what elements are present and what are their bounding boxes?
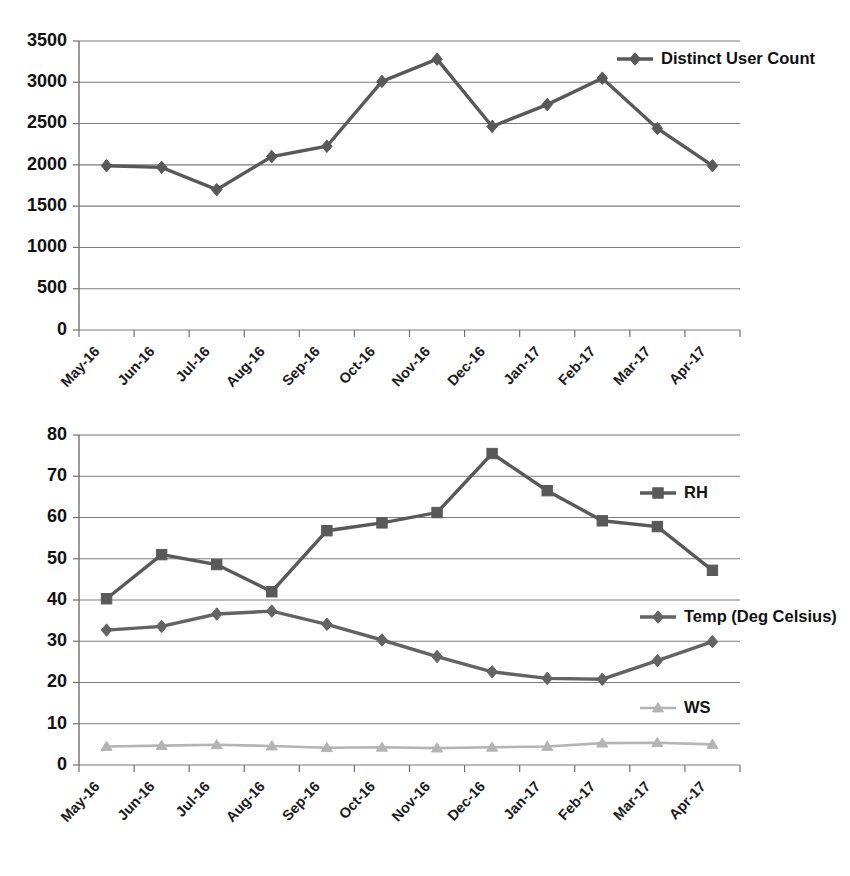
data-point-marker xyxy=(652,654,663,667)
data-point-marker xyxy=(487,448,497,458)
y-axis-tick-label: 0 xyxy=(57,319,67,339)
bottom-gridlines xyxy=(79,435,740,765)
weather-parameters-svg: 01020304050607080 May-16Jun-16Jul-16Aug-… xyxy=(0,415,850,876)
x-axis-tick-label: Apr-17 xyxy=(666,778,709,823)
data-point-marker xyxy=(101,594,111,604)
x-axis-tick-label: Sep-16 xyxy=(279,778,323,824)
y-axis-tick-label: 60 xyxy=(47,506,67,526)
legend-marker xyxy=(653,488,663,498)
legend-label: RH xyxy=(684,483,708,501)
legend-item-ws: WS xyxy=(640,698,711,716)
y-axis-tick-label: 80 xyxy=(47,424,67,444)
x-axis-tick-label: Aug-16 xyxy=(223,343,268,390)
y-axis-tick-label: 1500 xyxy=(27,195,67,215)
x-axis-tick-label: Oct-16 xyxy=(336,343,378,387)
data-point-marker xyxy=(707,635,718,648)
x-axis-tick-label: May-16 xyxy=(57,778,102,825)
x-axis-tick-label: May-16 xyxy=(57,343,102,390)
x-axis-tick-label: Feb-17 xyxy=(555,778,599,823)
x-axis-tick-label: Jun-16 xyxy=(114,343,158,388)
data-point-marker xyxy=(101,159,112,172)
bottom-x-axis-ticks xyxy=(79,765,740,772)
series-line-distinct-user-count xyxy=(107,59,713,189)
x-axis-tick-label: Jun-16 xyxy=(114,778,158,823)
bottom-y-axis-labels: 01020304050607080 xyxy=(47,424,67,774)
x-axis-tick-label: Oct-16 xyxy=(336,778,378,822)
x-axis-tick-label: Feb-17 xyxy=(555,343,599,388)
data-point-marker xyxy=(597,516,607,526)
x-axis-tick-label: Dec-16 xyxy=(444,778,488,824)
data-point-marker xyxy=(542,485,552,495)
legend-label: Temp (Deg Celsius) xyxy=(684,607,837,625)
legend-item-distinct-user-count: Distinct User Count xyxy=(617,49,816,67)
top-x-axis-ticks xyxy=(79,330,740,337)
series-line-ws xyxy=(107,743,713,748)
data-point-marker xyxy=(432,507,442,517)
legend-item-rh: RH xyxy=(640,483,708,501)
chart-panel-distinct-user-count: 0500100015002000250030003500 May-16Jun-1… xyxy=(0,0,850,430)
x-axis-tick-label: Sep-16 xyxy=(279,343,323,389)
legend-label: WS xyxy=(684,698,711,716)
data-point-marker xyxy=(267,587,277,597)
data-point-marker xyxy=(101,624,112,637)
y-axis-tick-label: 30 xyxy=(47,630,67,650)
x-axis-tick-label: Jan-17 xyxy=(500,778,543,823)
data-point-marker xyxy=(156,161,167,174)
series-line-temp-deg-celsius xyxy=(107,611,713,679)
data-point-marker xyxy=(487,666,498,679)
data-point-marker xyxy=(267,605,278,618)
y-axis-tick-label: 3000 xyxy=(27,71,67,91)
x-axis-tick-label: Dec-16 xyxy=(444,343,488,389)
x-axis-tick-label: Mar-17 xyxy=(610,778,654,823)
chart-panel-weather-parameters: 01020304050607080 May-16Jun-16Jul-16Aug-… xyxy=(0,415,850,876)
y-axis-tick-label: 70 xyxy=(47,465,67,485)
x-axis-tick-label: Apr-17 xyxy=(666,343,709,388)
distinct-user-count-svg: 0500100015002000250030003500 May-16Jun-1… xyxy=(0,0,850,430)
y-axis-tick-label: 3500 xyxy=(27,30,67,50)
y-axis-tick-label: 10 xyxy=(47,713,67,733)
data-point-marker xyxy=(211,608,222,621)
data-point-marker xyxy=(652,521,662,531)
top-x-axis-labels: May-16Jun-16Jul-16Aug-16Sep-16Oct-16Nov-… xyxy=(57,343,708,390)
x-axis-tick-label: Aug-16 xyxy=(223,778,268,825)
series-line-rh xyxy=(107,454,713,599)
y-axis-tick-label: 1000 xyxy=(27,236,67,256)
x-axis-tick-label: Nov-16 xyxy=(389,343,434,389)
top-series-group xyxy=(101,53,717,196)
x-axis-tick-label: Jan-17 xyxy=(500,343,543,388)
top-legend: Distinct User Count xyxy=(617,49,816,67)
y-axis-tick-label: 2000 xyxy=(27,154,67,174)
data-point-marker xyxy=(156,549,166,559)
data-point-marker xyxy=(377,634,388,647)
y-axis-tick-label: 0 xyxy=(57,754,67,774)
data-point-marker xyxy=(212,559,222,569)
y-axis-tick-label: 2500 xyxy=(27,112,67,132)
two-panel-line-chart-figure: 0500100015002000250030003500 May-16Jun-1… xyxy=(0,0,850,876)
top-gridlines xyxy=(79,41,740,330)
legend-item-temp-deg-celsius: Temp (Deg Celsius) xyxy=(640,607,837,625)
data-point-marker xyxy=(432,650,443,663)
data-point-marker xyxy=(322,618,333,631)
data-point-marker xyxy=(322,526,332,536)
y-axis-tick-label: 20 xyxy=(47,671,67,691)
top-y-axis-ticks xyxy=(73,41,79,330)
legend-marker xyxy=(630,53,641,66)
legend-label: Distinct User Count xyxy=(661,49,816,67)
x-axis-tick-label: Jul-16 xyxy=(173,778,213,820)
y-axis-tick-label: 50 xyxy=(47,548,67,568)
data-point-marker xyxy=(267,150,278,163)
top-y-axis-labels: 0500100015002000250030003500 xyxy=(27,30,67,339)
legend-marker xyxy=(653,611,664,624)
y-axis-tick-label: 500 xyxy=(37,277,67,297)
data-point-marker xyxy=(377,518,387,528)
x-axis-tick-label: Mar-17 xyxy=(610,343,654,388)
data-point-marker xyxy=(156,620,167,633)
bottom-y-axis-ticks xyxy=(73,435,79,765)
data-point-marker xyxy=(597,673,608,686)
data-point-marker xyxy=(707,565,717,575)
data-point-marker xyxy=(211,183,222,196)
bottom-x-axis-labels: May-16Jun-16Jul-16Aug-16Sep-16Oct-16Nov-… xyxy=(57,778,708,825)
data-point-marker xyxy=(542,98,553,111)
y-axis-tick-label: 40 xyxy=(47,589,67,609)
x-axis-tick-label: Nov-16 xyxy=(389,778,434,824)
